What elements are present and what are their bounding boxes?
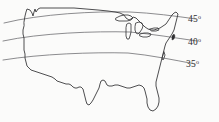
label-lat-35: 35o — [186, 59, 199, 69]
latitude-parallels — [3, 12, 197, 64]
great-lakes-group — [116, 15, 159, 39]
coastal-details — [162, 34, 175, 60]
us-latitude-map: 45o 40o 35o — [0, 0, 219, 122]
lake-michigan-outline — [126, 23, 131, 39]
us-border-path — [23, 8, 178, 111]
national-outline — [23, 8, 178, 111]
label-lat-40: 40o — [188, 37, 201, 47]
cape-cod-icon — [172, 34, 175, 40]
parallel-45-line — [4, 12, 196, 23]
parallel-35-line — [3, 53, 195, 64]
chesapeake-bay-outline — [162, 52, 165, 60]
latitude-labels: 45o 40o 35o — [186, 14, 201, 69]
label-lat-45: 45o — [188, 14, 201, 24]
